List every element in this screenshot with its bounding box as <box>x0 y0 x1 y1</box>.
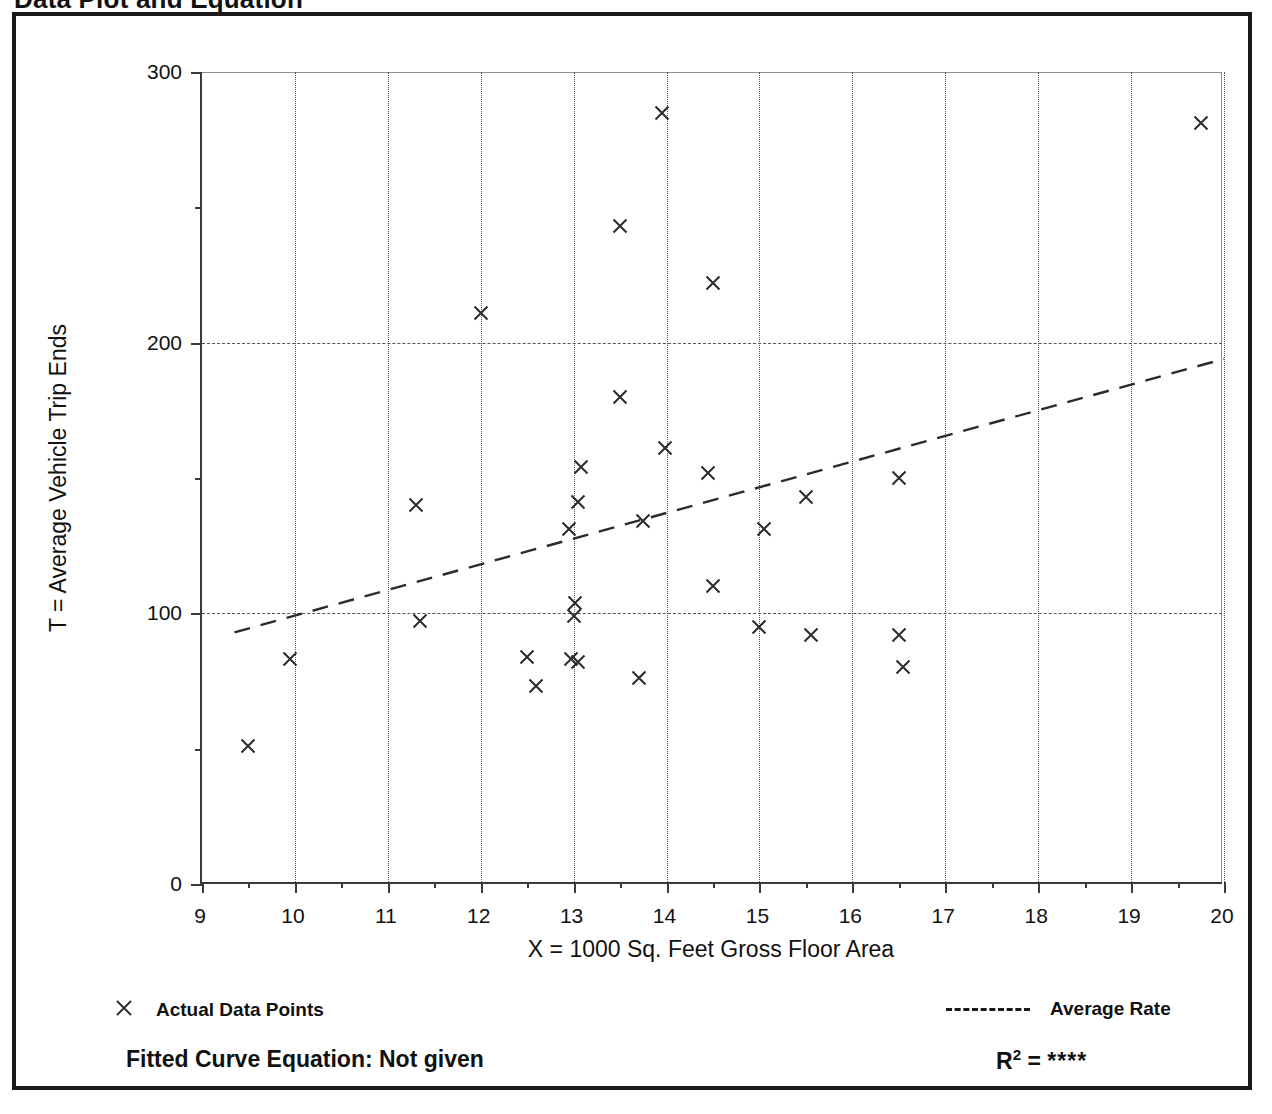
x-axis-title: X = 1000 Sq. Feet Gross Floor Area <box>200 936 1222 963</box>
y-axis-title: T = Average Vehicle Trip Ends <box>45 324 72 632</box>
plot-area <box>200 72 1222 884</box>
r2-stars: **** <box>1047 1048 1087 1074</box>
figure-frame: 91011121314151617181920 0100200300 T = A… <box>12 12 1252 1090</box>
r2-prefix: R <box>996 1048 1013 1074</box>
legend-item-average-rate: Average Rate <box>946 998 1171 1020</box>
grid-line-vertical <box>1224 72 1225 882</box>
legend-item-actual-data-points: Actual Data Points <box>114 998 324 1022</box>
y-axis-tick-label: 200 <box>147 331 182 355</box>
page-root: Data Plot and Equation 91011121314151617… <box>0 0 1272 1114</box>
x-axis-tick-label: 15 <box>746 904 769 928</box>
x-axis-tick-label: 10 <box>281 904 304 928</box>
x-marker-icon <box>114 998 134 1022</box>
x-axis-tick-label: 19 <box>1117 904 1140 928</box>
chart-figure: 91011121314151617181920 0100200300 T = A… <box>16 16 1248 1086</box>
legend-label-actual-data-points: Actual Data Points <box>156 999 324 1021</box>
y-axis-tick <box>191 72 202 74</box>
x-axis-tick-label: 9 <box>194 904 206 928</box>
y-axis-tick <box>191 884 202 886</box>
fitted-curve-equation: Fitted Curve Equation: Not given <box>126 1046 484 1073</box>
r-squared-value: R2 = **** <box>996 1046 1087 1075</box>
x-axis-tick-label: 18 <box>1024 904 1047 928</box>
x-axis-tick-label: 17 <box>932 904 955 928</box>
x-axis-tick-label: 11 <box>375 904 397 928</box>
x-axis-tick-label: 16 <box>839 904 862 928</box>
y-axis-tick-label: 0 <box>170 872 182 896</box>
x-axis-tick-label: 20 <box>1210 904 1233 928</box>
y-axis-minor-tick <box>195 478 202 480</box>
x-axis-tick-label: 13 <box>560 904 583 928</box>
x-axis-tick <box>1224 882 1226 893</box>
y-axis-tick <box>191 613 202 615</box>
y-axis-minor-tick <box>195 207 202 209</box>
r2-exponent: 2 <box>1013 1046 1021 1063</box>
y-axis-tick <box>191 343 202 345</box>
y-axis-minor-tick <box>195 749 202 751</box>
x-axis-tick-label: 12 <box>467 904 490 928</box>
legend-label-average-rate: Average Rate <box>1050 998 1171 1020</box>
y-axis-tick-label: 300 <box>147 60 182 84</box>
y-axis-tick-label: 100 <box>147 601 182 625</box>
x-axis-tick-label: 14 <box>653 904 676 928</box>
r2-equals: = <box>1021 1048 1047 1074</box>
average-rate-line-svg <box>202 72 1224 884</box>
dashed-line-icon <box>946 1008 1030 1011</box>
